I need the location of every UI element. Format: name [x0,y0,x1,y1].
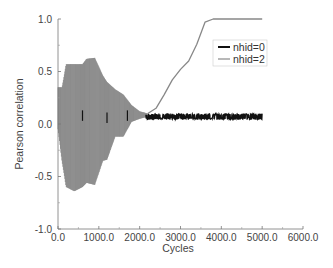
y-tick-label: 0.0 [38,119,52,130]
x-ticks: 0.01000.02000.03000.04000.05000.06000.0 [51,226,319,243]
y-tick-label: -1.0 [35,224,53,235]
series-nhid0-line [146,114,262,120]
x-tick-label: 6000.0 [288,232,319,243]
x-tick-label: 0.0 [51,232,65,243]
y-axis-title: Pearson correlation [13,78,25,169]
y-tick-label: 1.0 [38,14,52,25]
x-axis-title: Cycles [162,242,194,254]
x-tick-label: 2000.0 [124,232,155,243]
legend: nhid=0 nhid=2 [213,40,267,66]
legend-label-nhid0: nhid=0 [233,41,265,53]
y-ticks: -1.0-0.50.00.51.0 [35,14,61,235]
chart: -1.0-0.50.00.51.0 0.01000.02000.03000.04… [0,0,333,268]
x-tick-label: 1000.0 [84,232,115,243]
y-tick-label: -0.5 [35,171,53,182]
x-tick-label: 4000.0 [206,232,237,243]
legend-label-nhid2: nhid=2 [233,53,265,65]
y-tick-label: 0.5 [38,66,52,77]
series-nhid2-oscillation [58,58,148,191]
x-tick-label: 5000.0 [247,232,278,243]
